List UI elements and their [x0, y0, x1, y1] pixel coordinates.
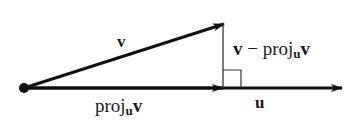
label-orth-sub-u: u: [293, 46, 300, 61]
label-orth-proj: proj: [263, 38, 294, 59]
label-u: u: [255, 93, 264, 112]
label-proj-sub-u: u: [126, 103, 133, 118]
label-orth-v: v: [233, 38, 243, 59]
vector-projection-diagram: v v − projuv projuv u: [0, 0, 357, 139]
label-orth-v2: v: [301, 38, 311, 59]
right-angle-marker-icon: [223, 70, 241, 88]
label-orth-minus: −: [243, 38, 263, 59]
label-v: v: [117, 32, 126, 51]
label-proj-v: v: [133, 95, 143, 116]
label-projection: projuv: [95, 95, 143, 118]
label-proj-prefix: proj: [95, 95, 126, 116]
label-orthogonal-component: v − projuv: [233, 38, 311, 61]
origin-dot-icon: [19, 83, 29, 93]
